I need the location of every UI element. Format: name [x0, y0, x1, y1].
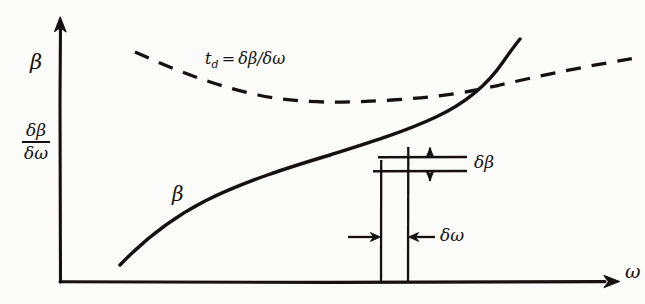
x-axis-line	[60, 282, 605, 283]
td-curve-label-expression: δβ/δω	[238, 49, 285, 68]
y-axis-ratio-denominator: δω	[22, 145, 50, 162]
beta-curve-label: β	[172, 184, 184, 204]
y-axis-label-beta: β	[30, 52, 42, 73]
delta-omega-label: δω	[440, 227, 464, 244]
td-curve-label-equals: =	[222, 49, 235, 68]
diagram-drawing	[0, 0, 645, 304]
x-axis-label-omega: ω	[625, 262, 641, 281]
delta-beta-label: δβ	[474, 154, 494, 171]
delta-omega-arrow-group	[348, 233, 435, 242]
y-axis-ratio-numerator: δβ	[22, 122, 50, 140]
td-curve-label-subscript: d	[211, 58, 218, 71]
delta-beta-arrow-group	[426, 148, 434, 182]
y-axis-line	[60, 26, 61, 282]
y-axis-label-ratio: δβ δω	[22, 122, 50, 162]
construction-lines-group	[373, 147, 467, 282]
td-curve-label: td = δβ/δω	[205, 51, 285, 70]
figure-canvas: β δβ δω ω td = δβ/δω β δβ δω	[0, 0, 645, 304]
